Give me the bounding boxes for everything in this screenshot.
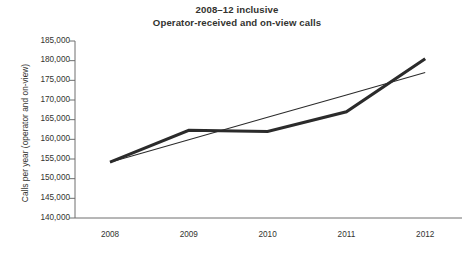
data-series-line — [110, 59, 425, 162]
trendline-series — [110, 72, 425, 162]
axis-group — [69, 41, 462, 218]
series-group — [110, 59, 425, 162]
plot-area — [0, 0, 474, 253]
chart-figure: 2008–12 inclusive Operator-received and … — [0, 0, 474, 253]
